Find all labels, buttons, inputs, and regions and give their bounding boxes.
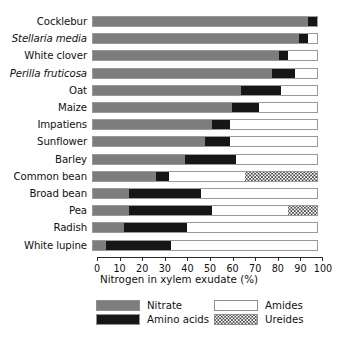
- row-label-cocklebur: Cocklebur: [0, 16, 92, 27]
- bar-segment-nitrate: [93, 206, 129, 215]
- row-label-broad-bean: Broad bean: [0, 188, 92, 199]
- bar-segment-nitrate: [93, 17, 308, 26]
- bar-segment-nitrate: [93, 103, 232, 112]
- bar-segment-amino: [129, 189, 201, 198]
- x-tick: [165, 257, 166, 261]
- bar-segment-amides: [295, 69, 317, 78]
- legend-label-ureides: Ureides: [265, 314, 304, 325]
- stacked-bar: [92, 188, 318, 199]
- x-tick: [142, 257, 143, 261]
- chart-row: Maize: [0, 99, 340, 116]
- x-tick: [322, 257, 323, 261]
- stacked-bar: [92, 205, 318, 216]
- bar-segment-amino: [299, 34, 308, 43]
- chart-row: White clover: [0, 47, 340, 64]
- bar-segment-amides: [308, 34, 317, 43]
- x-tick: [233, 257, 234, 261]
- bar-segment-nitrate: [93, 86, 241, 95]
- chart-row: Common bean: [0, 168, 340, 185]
- stacked-bar: [92, 68, 318, 79]
- bar-segment-amides: [201, 189, 317, 198]
- bar-segment-amino: [185, 155, 237, 164]
- row-label-white-lupine: White lupine: [0, 240, 92, 251]
- x-tick: [120, 257, 121, 261]
- bar-segment-ureides: [288, 206, 317, 215]
- row-label-pea: Pea: [0, 205, 92, 216]
- chart-row: Barley: [0, 151, 340, 168]
- row-label-impatiens: Impatiens: [0, 119, 92, 130]
- chart-row: Radish: [0, 219, 340, 236]
- row-label-oat: Oat: [0, 85, 92, 96]
- bar-segment-nitrate: [93, 172, 156, 181]
- bar-segment-amides: [259, 103, 317, 112]
- row-label-barley: Barley: [0, 154, 92, 165]
- bar-segment-amides: [288, 51, 317, 60]
- bar-segment-amino: [241, 86, 281, 95]
- bar-segment-amino: [156, 172, 169, 181]
- legend-swatch-ureides: [214, 314, 258, 325]
- row-label-maize: Maize: [0, 102, 92, 113]
- legend-item-nitrate: Nitrate: [96, 300, 210, 311]
- x-tick: [97, 257, 98, 261]
- stacked-bar: [92, 50, 318, 61]
- chart-row: Perilla fruticosa: [0, 65, 340, 82]
- chart-legend: NitrateAmidesAmino acidsUreides: [96, 300, 328, 325]
- legend-swatch-amides: [214, 300, 258, 311]
- figure-stacked-bar-chart: CockleburStellaria mediaWhite cloverPeri…: [0, 0, 340, 349]
- chart-row: Sunflower: [0, 133, 340, 150]
- bar-segment-amides: [236, 155, 317, 164]
- bar-segment-nitrate: [93, 51, 279, 60]
- x-tick: [300, 257, 301, 261]
- stacked-bar: [92, 85, 318, 96]
- x-tick: [255, 257, 256, 261]
- stacked-bar: [92, 136, 318, 147]
- legend-swatch-amino: [96, 314, 140, 325]
- bar-segment-nitrate: [93, 137, 205, 146]
- legend-item-amides: Amides: [214, 300, 328, 311]
- chart-row: Cocklebur: [0, 13, 340, 30]
- stacked-bar: [92, 119, 318, 130]
- bar-segment-nitrate: [93, 69, 272, 78]
- bar-segment-amides: [169, 172, 245, 181]
- bar-segment-nitrate: [93, 241, 106, 250]
- bar-segment-amino: [106, 241, 171, 250]
- bar-segment-amino: [272, 69, 294, 78]
- bar-segment-amides: [281, 86, 317, 95]
- legend-swatch-nitrate: [96, 300, 140, 311]
- bar-segment-amino: [308, 17, 317, 26]
- x-tick: [210, 257, 211, 261]
- bar-segment-ureides: [245, 172, 317, 181]
- bar-segment-amino: [279, 51, 288, 60]
- row-label-sunflower: Sunflower: [0, 136, 92, 147]
- bar-segment-amides: [230, 120, 317, 129]
- bar-segment-amides: [230, 137, 317, 146]
- chart-plot-area: CockleburStellaria mediaWhite cloverPeri…: [0, 13, 340, 254]
- bar-segment-nitrate: [93, 223, 124, 232]
- stacked-bar: [92, 102, 318, 113]
- x-axis-label: Nitrogen in xylem exudate (%): [0, 273, 340, 285]
- bar-segment-amides: [187, 223, 317, 232]
- legend-label-amides: Amides: [265, 300, 303, 311]
- bar-segment-nitrate: [93, 155, 185, 164]
- bar-segment-nitrate: [93, 34, 299, 43]
- stacked-bar: [92, 240, 318, 251]
- legend-label-amino: Amino acids: [147, 314, 209, 325]
- row-label-common-bean: Common bean: [0, 171, 92, 182]
- bar-segment-amino: [232, 103, 259, 112]
- chart-row: White lupine: [0, 236, 340, 253]
- bar-segment-amides: [212, 206, 288, 215]
- chart-row: Stellaria media: [0, 30, 340, 47]
- bar-segment-amino: [129, 206, 212, 215]
- bar-segment-amino: [205, 137, 230, 146]
- bar-segment-nitrate: [93, 120, 212, 129]
- bar-segment-nitrate: [93, 189, 129, 198]
- bar-segment-amides: [171, 241, 317, 250]
- row-label-perilla-fruticosa: Perilla fruticosa: [0, 68, 92, 79]
- stacked-bar: [92, 154, 318, 165]
- stacked-bar: [92, 171, 318, 182]
- legend-label-nitrate: Nitrate: [147, 300, 182, 311]
- chart-row: Broad bean: [0, 185, 340, 202]
- stacked-bar: [92, 222, 318, 233]
- chart-row: Impatiens: [0, 116, 340, 133]
- bar-segment-amino: [212, 120, 230, 129]
